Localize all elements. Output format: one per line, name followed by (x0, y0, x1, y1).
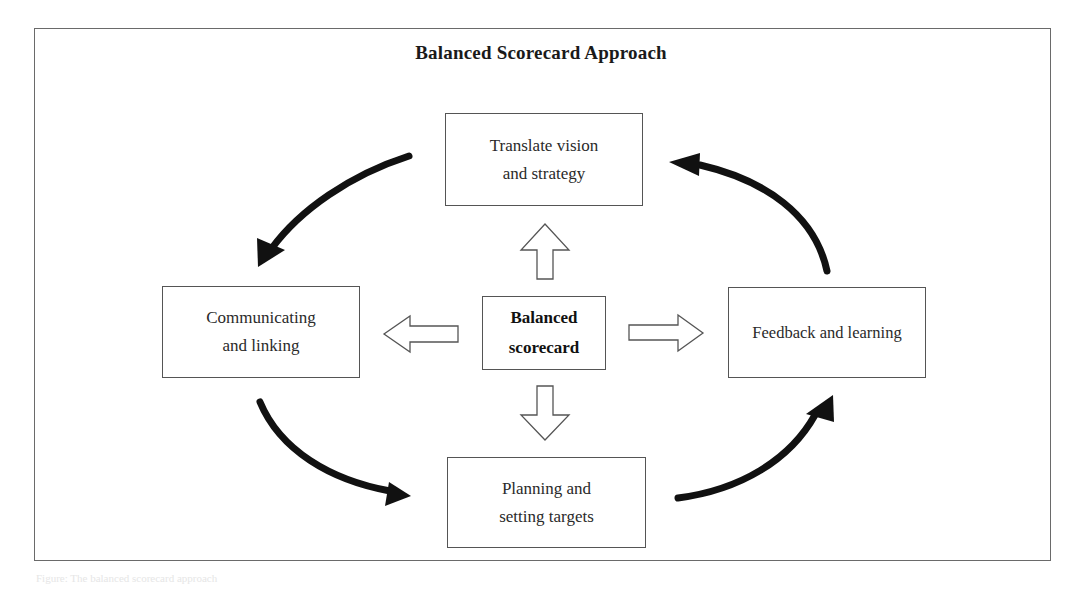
node-label-line2: and strategy (490, 160, 598, 188)
node-balanced-scorecard: Balanced scorecard (482, 296, 606, 370)
diagram-title: Balanced Scorecard Approach (0, 42, 1082, 64)
node-label-line2: and linking (206, 332, 316, 360)
node-translate-vision: Translate vision and strategy (445, 113, 643, 206)
node-label-line2: setting targets (499, 503, 594, 531)
node-label-line1: Communicating (206, 304, 316, 332)
node-label-line1: Feedback and learning (752, 319, 901, 347)
node-label-line1: Translate vision (490, 132, 598, 160)
node-feedback-learning: Feedback and learning (728, 287, 926, 378)
center-label-line2: scorecard (509, 333, 580, 363)
node-communicating-linking: Communicating and linking (162, 286, 360, 378)
figure-caption: Figure: The balanced scorecard approach (36, 572, 217, 584)
node-label-line1: Planning and (499, 475, 594, 503)
center-label-line1: Balanced (509, 303, 580, 333)
node-planning-targets: Planning and setting targets (447, 457, 646, 548)
